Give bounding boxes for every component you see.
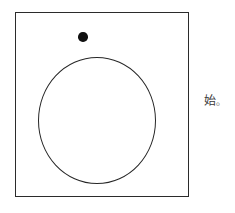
caption-punctuation: 。	[216, 96, 226, 107]
large-circle	[38, 57, 156, 184]
caption-character: 始	[204, 94, 216, 108]
side-caption: 始。	[204, 94, 235, 109]
filled-dot	[78, 32, 88, 42]
figure-canvas: 始。	[0, 0, 235, 213]
